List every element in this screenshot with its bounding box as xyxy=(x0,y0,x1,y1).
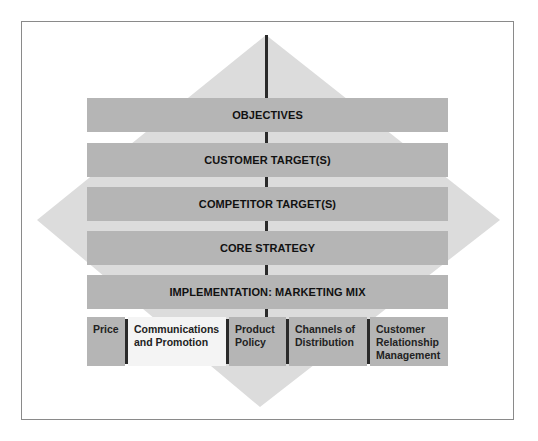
band-implementation: IMPLEMENTATION: MARKETING MIX xyxy=(87,275,448,309)
mix-cell-channels: Channels of Distribution xyxy=(289,317,367,366)
band-objectives: OBJECTIVES xyxy=(87,98,448,132)
mix-cell-crm: Customer Relationship Management xyxy=(370,317,448,366)
mix-cell-communications: Communications and Promotion xyxy=(128,317,226,366)
marketing-mix-row: Price Communications and Promotion Produ… xyxy=(87,317,448,366)
band-customer-targets: CUSTOMER TARGET(S) xyxy=(87,143,448,177)
mix-cell-product-policy: Product Policy xyxy=(229,317,286,366)
mix-cell-price: Price xyxy=(87,317,125,366)
band-core-strategy: CORE STRATEGY xyxy=(87,231,448,265)
band-competitor-targets: COMPETITOR TARGET(S) xyxy=(87,187,448,221)
